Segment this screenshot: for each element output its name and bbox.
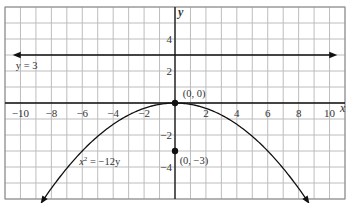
y-tick-label: −2 — [160, 129, 172, 141]
x-tick-label: 4 — [234, 107, 240, 119]
y-tick-label: 4 — [167, 33, 173, 45]
x-tick-label: 10 — [324, 107, 336, 119]
x-tick-label: −6 — [76, 107, 88, 119]
y-axis-label: y — [176, 5, 184, 19]
y-tick-label: −4 — [160, 161, 172, 173]
x-tick-label: −10 — [12, 107, 30, 119]
focus-point — [172, 148, 178, 154]
arrow-head-icon — [13, 52, 21, 58]
x-axis-label: x — [339, 101, 346, 115]
eq-rhs: = −12y — [87, 156, 121, 167]
vertex-label: (0, 0) — [183, 88, 206, 100]
parabola-graph: −10−8−6−4−2246810 42−2−4 x y y = 3 x2 = … — [0, 0, 350, 203]
x-tick-label: −8 — [46, 107, 58, 119]
arrow-head-icon — [302, 195, 309, 203]
x-tick-label: 6 — [265, 107, 271, 119]
arrow-head-icon — [41, 195, 48, 203]
parabola-equation-label: x2 = −12y — [78, 155, 121, 167]
y-tick-label: 2 — [167, 65, 173, 77]
x-tick-label: 8 — [296, 107, 302, 119]
directrix-label: y = 3 — [16, 60, 38, 71]
arrow-head-icon — [329, 52, 337, 58]
focus-label: (0, −3) — [180, 155, 209, 167]
x-tick-labels: −10−8−6−4−2246810 — [12, 107, 336, 119]
x-tick-label: −4 — [107, 107, 119, 119]
vertex-point — [172, 100, 178, 106]
